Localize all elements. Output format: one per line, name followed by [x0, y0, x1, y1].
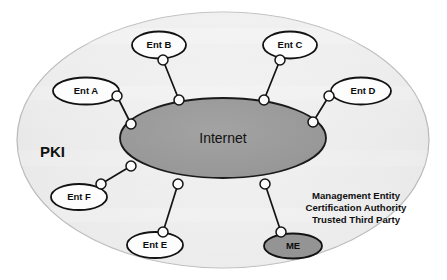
me-note-line-2: Certification Authority	[306, 202, 408, 213]
anchor-ent-f[interactable]	[96, 179, 106, 189]
node-ent-c[interactable]	[259, 95, 269, 105]
node-ent-d[interactable]	[308, 117, 318, 127]
entity-label-ent-e: Ent E	[143, 239, 167, 250]
anchor-ent-a[interactable]	[112, 91, 122, 101]
diagram-canvas: Internet Ent A Ent B Ent C	[0, 0, 447, 280]
internet-cloud[interactable]: Internet	[120, 98, 326, 178]
node-me[interactable]	[260, 179, 270, 189]
me-note-line-3: Trusted Third Party	[312, 214, 401, 225]
node-ent-a[interactable]	[126, 119, 136, 129]
pki-network-diagram: Internet Ent A Ent B Ent C	[0, 0, 447, 280]
node-ent-b[interactable]	[174, 95, 184, 105]
entity-label-ent-d: Ent D	[351, 85, 376, 96]
anchor-ent-d[interactable]	[324, 91, 334, 101]
pki-region-label: PKI	[40, 143, 65, 160]
entity-label-ent-c: Ent C	[278, 39, 303, 50]
node-ent-e[interactable]	[173, 179, 183, 189]
entity-label-me: ME	[286, 240, 300, 251]
entity-label-ent-b: Ent B	[147, 39, 172, 50]
internet-label: Internet	[199, 130, 247, 146]
entity-label-ent-a: Ent A	[74, 85, 99, 96]
me-note-line-1: Management Entity	[312, 190, 401, 201]
management-entity-note: Management Entity Certification Authorit…	[306, 190, 408, 225]
anchor-ent-b[interactable]	[158, 55, 168, 65]
anchor-ent-e[interactable]	[158, 227, 168, 237]
entity-ent-a[interactable]: Ent A	[53, 78, 122, 105]
anchor-me[interactable]	[276, 227, 286, 237]
node-ent-f[interactable]	[126, 161, 136, 171]
anchor-ent-c[interactable]	[275, 55, 285, 65]
entity-label-ent-f: Ent F	[67, 191, 91, 202]
